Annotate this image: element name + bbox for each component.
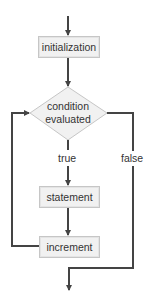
statement-box: statement bbox=[39, 186, 100, 208]
true-label: true bbox=[58, 152, 76, 164]
statement-label: statement bbox=[46, 191, 92, 203]
condition-label: condition evaluated bbox=[38, 100, 98, 126]
condition-line2: evaluated bbox=[38, 113, 98, 126]
loop-back-arrow bbox=[12, 113, 39, 246]
increment-label: increment bbox=[46, 241, 92, 253]
initialization-box: initialization bbox=[38, 36, 100, 58]
condition-line1: condition bbox=[38, 100, 98, 113]
increment-box: increment bbox=[39, 236, 100, 258]
initialization-label: initialization bbox=[42, 41, 96, 53]
false-exit-arrow bbox=[69, 166, 133, 290]
false-label: false bbox=[121, 152, 143, 164]
